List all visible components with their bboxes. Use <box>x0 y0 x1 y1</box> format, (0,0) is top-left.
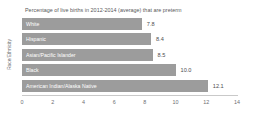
x-tick-label: 4 <box>82 99 85 105</box>
bar <box>22 18 142 30</box>
bar-category-label: American Indian/Alaska Native <box>26 80 97 92</box>
plot-area: White7.8Hispanic8.4Asian/Pacific Islande… <box>22 18 237 96</box>
bar-value-label: 8.5 <box>158 49 166 61</box>
x-tick-label: 0 <box>21 99 24 105</box>
bar-row: Asian/Pacific Islander8.5 <box>22 49 237 61</box>
bar-value-label: 12.1 <box>213 80 224 92</box>
bar-category-label: White <box>26 18 39 30</box>
bar-category-label: Hispanic <box>26 33 46 45</box>
bar-row: American Indian/Alaska Native12.1 <box>22 80 237 92</box>
chart-title: Percentage of live births in 2012-2014 (… <box>25 7 182 13</box>
bar-value-label: 8.4 <box>156 33 164 45</box>
x-tick-label: 2 <box>51 99 54 105</box>
bar-value-label: 10.0 <box>181 64 192 76</box>
bar-row: White7.8 <box>22 18 237 30</box>
y-axis-title: Race/Ethnicity <box>7 30 12 80</box>
x-tick-label: 12 <box>203 99 209 105</box>
x-tick-label: 6 <box>113 99 116 105</box>
bar-value-label: 7.8 <box>147 18 155 30</box>
bar-category-label: Black <box>26 64 39 76</box>
bar-row: Black10.0 <box>22 64 237 76</box>
x-tick-label: 14 <box>234 99 240 105</box>
x-axis-line <box>22 95 238 96</box>
x-tick-label: 10 <box>173 99 179 105</box>
bar-chart: Percentage of live births in 2012-2014 (… <box>0 0 254 115</box>
x-tick-label: 8 <box>143 99 146 105</box>
bar-category-label: Asian/Pacific Islander <box>26 49 76 61</box>
bar <box>22 64 176 76</box>
bar-row: Hispanic8.4 <box>22 33 237 45</box>
